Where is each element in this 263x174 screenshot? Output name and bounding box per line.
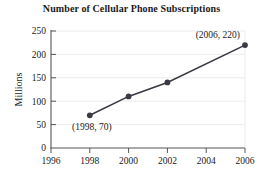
chart-figure: Number of Cellular Phone Subscriptions bbox=[0, 0, 263, 174]
y-tick-labels: 250 200 150 100 50 0 bbox=[32, 26, 47, 153]
y-axis-label: Millions bbox=[13, 72, 24, 106]
y-tick-label: 100 bbox=[32, 97, 47, 107]
data-point bbox=[87, 112, 93, 118]
line-chart-plot: 250 200 150 100 50 0 1996 1998 2000 2002… bbox=[0, 0, 263, 174]
x-tick-label: 2002 bbox=[158, 156, 177, 166]
data-point bbox=[242, 42, 248, 48]
annotation-1998-70: (1998, 70) bbox=[72, 122, 112, 133]
x-tick-labels: 1996 1998 2000 2002 2004 2006 bbox=[42, 156, 255, 166]
x-tick-label: 2006 bbox=[236, 156, 255, 166]
y-tick-label: 150 bbox=[32, 73, 47, 83]
y-tick-label: 0 bbox=[41, 143, 46, 153]
y-tick-label: 200 bbox=[32, 50, 47, 60]
x-axis-ticks bbox=[51, 148, 245, 153]
data-point bbox=[165, 80, 171, 86]
y-tick-label: 250 bbox=[32, 26, 47, 36]
data-markers bbox=[87, 42, 248, 118]
x-tick-label: 1998 bbox=[80, 156, 99, 166]
y-tick-label: 50 bbox=[37, 120, 47, 130]
data-point bbox=[126, 94, 132, 100]
y-axis-ticks bbox=[51, 31, 56, 125]
x-tick-label: 2000 bbox=[119, 156, 138, 166]
x-tick-label: 1996 bbox=[42, 156, 61, 166]
annotation-2006-220: (2006, 220) bbox=[196, 30, 240, 41]
x-tick-label: 2004 bbox=[197, 156, 216, 166]
gridlines bbox=[51, 31, 245, 125]
